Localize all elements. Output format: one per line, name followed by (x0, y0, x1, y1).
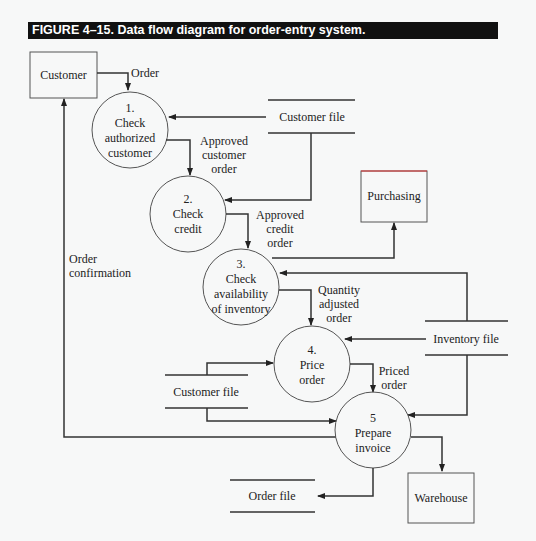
svg-text:Customer file: Customer file (173, 385, 239, 399)
svg-text:credit: credit (174, 222, 202, 236)
svg-text:customer: customer (202, 148, 246, 162)
svg-text:invoice: invoice (355, 441, 390, 455)
svg-text:availability: availability (214, 287, 268, 301)
process-5-prepare-invoice: 5 Prepare invoice (335, 392, 411, 468)
svg-text:Customer file: Customer file (279, 110, 345, 124)
store-customer-file-top: Customer file (268, 100, 355, 133)
svg-text:of inventory: of inventory (212, 302, 271, 316)
flow-customer-file-to-p4 (207, 363, 273, 375)
store-customer-file-bottom: Customer file (165, 375, 248, 408)
svg-text:2.: 2. (184, 192, 193, 206)
svg-text:order: order (326, 311, 351, 325)
svg-text:Inventory file: Inventory file (433, 332, 499, 346)
flow-p5-to-warehouse (411, 437, 442, 471)
svg-text:Order file: Order file (249, 489, 296, 503)
flow-approved-credit-order: Approved credit order (226, 208, 304, 250)
svg-text:Quantity: Quantity (318, 283, 360, 297)
flow-quantity-adjusted-order: Quantity adjusted order (279, 283, 360, 325)
svg-text:1.: 1. (126, 101, 135, 115)
svg-text:order: order (211, 162, 236, 176)
entity-customer: Customer (30, 52, 97, 98)
svg-text:order: order (381, 378, 406, 392)
flow-approved-customer-order: Approved customer order (166, 134, 248, 176)
svg-text:Approved: Approved (200, 134, 248, 148)
svg-text:confirmation: confirmation (69, 266, 131, 280)
svg-text:Prepare: Prepare (355, 426, 392, 440)
svg-text:Customer: Customer (40, 68, 87, 82)
entity-purchasing: Purchasing (361, 171, 427, 222)
store-order-file: Order file (230, 480, 315, 512)
process-2-check-credit: 2. Check credit (150, 176, 226, 252)
data-flow-diagram: Customer Order 1. Check authorized custo… (0, 0, 536, 541)
svg-text:3.: 3. (237, 257, 246, 271)
flow-inventory-to-p3 (280, 273, 467, 321)
svg-text:Warehouse: Warehouse (414, 491, 467, 505)
entity-warehouse: Warehouse (408, 473, 474, 523)
svg-text:customer: customer (108, 146, 152, 160)
svg-text:credit: credit (266, 222, 294, 236)
svg-text:Order: Order (131, 66, 159, 80)
flow-inventory-to-p5 (408, 355, 467, 415)
svg-text:Purchasing: Purchasing (367, 189, 420, 203)
svg-text:Price: Price (300, 358, 325, 372)
svg-text:order: order (299, 373, 324, 387)
svg-text:Check: Check (173, 207, 204, 221)
svg-text:Check: Check (115, 116, 146, 130)
process-1-check-authorized-customer: 1. Check authorized customer (92, 92, 168, 168)
svg-text:authorized: authorized (105, 131, 156, 145)
svg-text:5: 5 (370, 411, 376, 425)
process-3-check-availability: 3. Check availability of inventory (203, 249, 279, 325)
flow-priced-order: Priced order (350, 364, 409, 392)
svg-text:Check: Check (226, 272, 257, 286)
flow-order: Order (97, 66, 159, 90)
svg-text:Order: Order (69, 252, 97, 266)
svg-text:Priced: Priced (379, 364, 410, 378)
svg-text:4.: 4. (308, 343, 317, 357)
flow-p5-to-order-file (318, 468, 373, 496)
svg-text:Approved: Approved (256, 208, 304, 222)
svg-text:adjusted: adjusted (319, 297, 359, 311)
flow-customer-file-to-p5 (207, 408, 336, 421)
store-inventory-file: Inventory file (425, 321, 508, 355)
svg-text:order: order (267, 236, 292, 250)
process-4-price-order: 4. Price order (274, 326, 350, 402)
